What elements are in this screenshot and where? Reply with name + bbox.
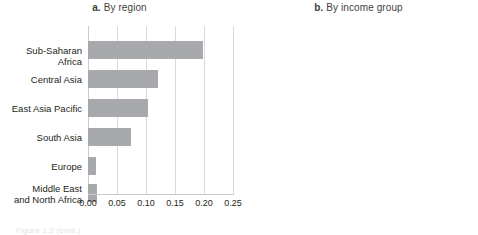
panel-b-title-text: By income group	[323, 2, 402, 13]
panel-b-title: b. By income group	[239, 2, 478, 13]
cat-label-east-asia-pacific: East Asia Pacific	[0, 103, 82, 114]
gridline-a-0.20	[204, 26, 205, 194]
gridline-a-0.25	[233, 26, 234, 194]
panel-b-by-income-group: b. By income group Low income Lower midd…	[239, 0, 478, 235]
panel-a-title: a. By region	[0, 2, 239, 13]
cat-label-south-asia: South Asia	[0, 132, 82, 143]
bar-east-asia-pacific	[88, 99, 148, 117]
cat-label-sub-saharan-africa: Sub-Saharan Africa	[0, 45, 82, 67]
bar-south-asia	[88, 128, 131, 146]
cat-label-central-asia: Central Asia	[0, 74, 82, 85]
bar-central-asia	[88, 70, 158, 88]
panel-a-title-text: By region	[101, 2, 147, 13]
panel-a-axis-line	[88, 194, 234, 195]
panel-a-by-region: a. By region Sub-Saharan Africa Central …	[0, 0, 239, 235]
figure-two-panel-bar-charts: a. By region Sub-Saharan Africa Central …	[0, 0, 478, 235]
panel-a-plot-area	[88, 26, 233, 194]
cat-label-europe: Europe	[0, 161, 82, 172]
figure-footnote-clipped: Figure 1.2 (cont.)	[16, 226, 81, 235]
bar-sub-saharan-africa	[88, 41, 203, 59]
panel-b-title-letter: b.	[314, 2, 323, 13]
panel-a-title-letter: a.	[92, 2, 101, 13]
bar-europe	[88, 157, 96, 175]
